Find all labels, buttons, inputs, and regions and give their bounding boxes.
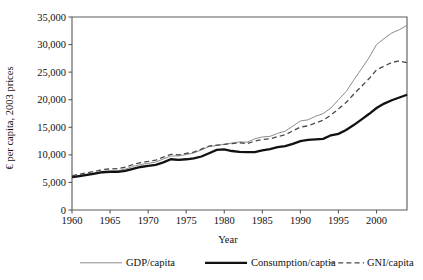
- x-tick-label: 1985: [252, 215, 273, 226]
- series-line-2: [72, 61, 407, 176]
- x-tick-label: 1990: [290, 215, 311, 226]
- series-line-0: [72, 25, 407, 176]
- x-tick-label: 1980: [214, 215, 235, 226]
- y-tick-label: 35,000: [37, 12, 66, 23]
- y-tick-label: 10,000: [37, 149, 66, 160]
- legend-label-1: Consumption/captia: [251, 257, 336, 268]
- chart-container: € per capita, 2003 prices 05,00010,00015…: [0, 0, 423, 280]
- y-tick-label: 25,000: [37, 67, 66, 78]
- data-series-group: [72, 25, 407, 177]
- y-tick-label: 0: [61, 205, 66, 216]
- y-tick-label: 5,000: [42, 177, 66, 188]
- x-tick-label: 1960: [62, 215, 83, 226]
- y-tick-label: 30,000: [37, 39, 66, 50]
- y-tick-label: 20,000: [37, 94, 66, 105]
- x-tick-label: 1975: [176, 215, 197, 226]
- x-tick-label: 2000: [366, 215, 387, 226]
- x-tick-label: 1995: [328, 215, 349, 226]
- chart-legend: GDP/capitaConsumption/captiaGNI/capita: [80, 257, 414, 268]
- x-axis-title: Year: [218, 234, 238, 245]
- legend-label-2: GNI/capita: [367, 257, 414, 268]
- x-tick-labels: 196019651970197519801985199019952000: [62, 215, 388, 226]
- line-chart: € per capita, 2003 prices 05,00010,00015…: [0, 0, 423, 280]
- y-axis-title-group: € per capita, 2003 prices: [4, 67, 15, 170]
- series-line-1: [72, 95, 407, 177]
- x-tick-label: 1970: [138, 215, 159, 226]
- legend-label-0: GDP/capita: [126, 257, 175, 268]
- plot-frame: [72, 17, 407, 210]
- x-tick-label: 1965: [100, 215, 121, 226]
- y-axis-title: € per capita, 2003 prices: [4, 67, 15, 170]
- tick-marks: [69, 17, 377, 214]
- y-tick-label: 15,000: [37, 122, 66, 133]
- y-tick-labels: 05,00010,00015,00020,00025,00030,00035,0…: [37, 12, 66, 216]
